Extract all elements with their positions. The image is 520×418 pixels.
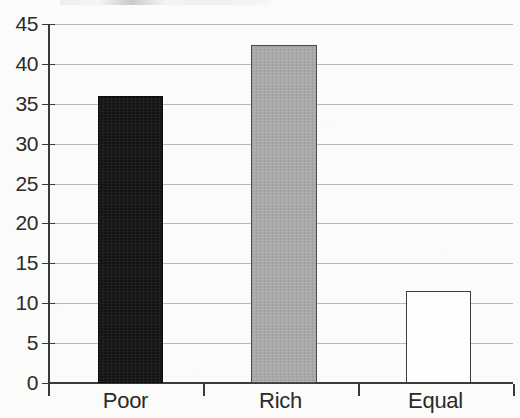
y-axis-label: 45 bbox=[0, 13, 38, 34]
y-axis-label: 35 bbox=[0, 93, 38, 114]
bar-chart: 051015202530354045 PoorRichEqual bbox=[0, 0, 520, 418]
y-axis-label: 40 bbox=[0, 53, 38, 74]
y-axis-spine bbox=[48, 24, 50, 385]
bar-poor bbox=[98, 96, 163, 383]
gridline bbox=[48, 24, 513, 25]
x-axis-label-rich: Rich bbox=[203, 389, 358, 413]
bar-rich bbox=[251, 45, 317, 383]
bar-equal bbox=[406, 291, 471, 383]
y-axis-label: 5 bbox=[0, 332, 38, 353]
y-axis-label: 20 bbox=[0, 212, 38, 233]
y-axis-label: 0 bbox=[0, 372, 38, 393]
y-axis-label: 15 bbox=[0, 252, 38, 273]
chart-title-remnant bbox=[60, 0, 270, 5]
y-axis-label: 10 bbox=[0, 292, 38, 313]
y-axis-label: 25 bbox=[0, 173, 38, 194]
x-axis-label-poor: Poor bbox=[48, 389, 203, 413]
y-axis-label: 30 bbox=[0, 133, 38, 154]
x-axis-tick bbox=[513, 384, 515, 396]
x-axis-label-equal: Equal bbox=[358, 389, 513, 413]
